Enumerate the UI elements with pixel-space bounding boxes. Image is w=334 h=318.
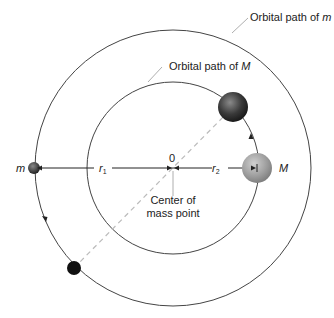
- label-M: M: [279, 162, 289, 174]
- arrow-r2-center: [174, 166, 179, 171]
- label-m: m: [16, 162, 25, 174]
- label-origin: 0: [169, 152, 175, 164]
- leader-inner: [148, 67, 162, 82]
- leader-outer: [232, 18, 248, 33]
- label-r2: r2: [212, 162, 220, 175]
- orbit-diagram: Orbital path of m Orbital path of M m M …: [0, 0, 334, 318]
- label-orbit-m: Orbital path of m: [250, 11, 331, 23]
- large-mass-M-later: [218, 92, 248, 122]
- label-orbit-M: Orbital path of M: [169, 60, 251, 72]
- label-r1: r1: [99, 162, 107, 175]
- label-center-2: mass point: [146, 207, 199, 219]
- dashed-line: [74, 107, 233, 268]
- small-mass-m-later: [67, 261, 81, 275]
- label-center-1: Center of: [150, 194, 196, 206]
- orbit-arrow-m: [42, 216, 48, 222]
